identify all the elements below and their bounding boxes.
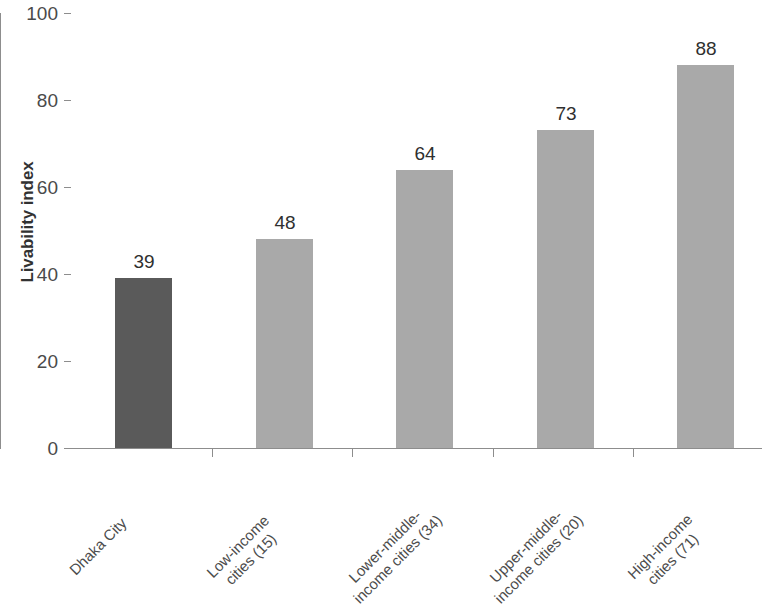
- bar-fill: [677, 65, 734, 448]
- y-axis-line: [0, 13, 1, 449]
- x-category-label-low-income-cities: Low-income cities (15): [158, 466, 332, 608]
- y-tick-label-80: 80: [0, 91, 58, 110]
- bar-lower-middle-income-cities[interactable]: [396, 170, 453, 448]
- bar-fill: [537, 130, 594, 448]
- x-category-label-lower-middle-income-cities: Lower-middle- income cities (34): [305, 466, 479, 608]
- y-tick-mark-100: [64, 13, 71, 14]
- y-tick-label-20: 20: [0, 352, 58, 371]
- bar-upper-middle-income-cities[interactable]: [537, 130, 594, 448]
- x-tick-mark-4: [633, 449, 634, 457]
- x-category-label-dhaka-city: Dhaka City: [18, 466, 179, 608]
- x-tick-mark-1: [212, 449, 213, 457]
- bar-fill: [115, 278, 172, 448]
- y-tick-label-100: 100: [0, 4, 58, 23]
- x-axis-line: [70, 448, 762, 449]
- y-tick-mark-0: [64, 448, 71, 449]
- bar-low-income-cities[interactable]: [256, 239, 313, 448]
- bar-value-label-1: 48: [245, 213, 325, 232]
- y-tick-label-60: 60: [0, 178, 58, 197]
- x-tick-mark-2: [352, 449, 353, 457]
- y-axis-title: Livability index: [18, 122, 38, 322]
- bar-fill: [396, 170, 453, 448]
- bar-value-label-2: 64: [385, 144, 465, 163]
- y-tick-mark-20: [64, 361, 71, 362]
- bar-value-label-3: 73: [526, 104, 606, 123]
- bar-high-income-cities[interactable]: [677, 65, 734, 448]
- y-tick-label-0: 0: [0, 439, 58, 458]
- y-tick-mark-60: [64, 187, 71, 188]
- x-tick-mark-3: [493, 449, 494, 457]
- bar-value-label-4: 88: [666, 39, 746, 58]
- y-tick-mark-40: [64, 274, 71, 275]
- bar-dhaka-city[interactable]: [115, 278, 172, 448]
- y-tick-label-40: 40: [0, 265, 58, 284]
- bar-value-label-0: 39: [104, 252, 184, 271]
- bar-fill: [256, 239, 313, 448]
- y-tick-mark-80: [64, 100, 71, 101]
